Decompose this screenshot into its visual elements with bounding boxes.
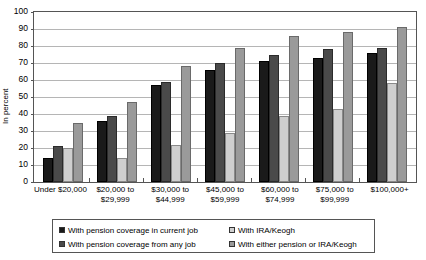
bar xyxy=(397,27,407,182)
legend-item: With IRA/Keogh xyxy=(229,226,368,235)
legend-item: With pension coverage from any job xyxy=(59,240,229,249)
y-tick-label: 100 xyxy=(4,7,28,15)
x-axis-tick-labels: Under $20,000$20,000 to $29,999$30,000 t… xyxy=(33,185,417,213)
plot-panel xyxy=(33,11,417,183)
y-tick-mark xyxy=(31,182,34,183)
bar xyxy=(107,116,117,182)
legend-swatch-icon xyxy=(59,227,65,233)
x-tick-label: $45,000 to $59,999 xyxy=(198,185,253,213)
legend-swatch-icon xyxy=(59,241,65,247)
y-tick-label: 0 xyxy=(4,177,28,185)
bar-groups xyxy=(34,12,416,182)
bar xyxy=(181,66,191,182)
bar xyxy=(367,53,377,182)
x-tick-label: Under $20,000 xyxy=(33,185,88,213)
plot-area: In percent 1009080706050403020100 Under … xyxy=(0,0,426,214)
bar xyxy=(205,70,215,182)
x-tick-label: $20,000 to $29,999 xyxy=(88,185,143,213)
legend-label: With pension coverage in current job xyxy=(68,226,198,235)
bar xyxy=(279,116,289,182)
y-tick-label: 90 xyxy=(4,24,28,32)
legend-label: With pension coverage from any job xyxy=(68,240,196,249)
bar xyxy=(377,48,387,182)
bar xyxy=(343,32,353,182)
bar xyxy=(289,36,299,182)
bar xyxy=(43,158,53,182)
bar xyxy=(323,49,333,182)
chart-legend: With pension coverage in current job Wit… xyxy=(52,219,375,253)
x-tick-label: $60,000 to $74,999 xyxy=(252,185,307,213)
y-tick-label: 10 xyxy=(4,160,28,168)
bar xyxy=(97,121,107,182)
bar xyxy=(387,83,397,182)
bar xyxy=(161,82,171,182)
bar xyxy=(151,85,161,182)
bar-group xyxy=(36,12,90,182)
bar xyxy=(313,58,323,182)
bar xyxy=(171,145,181,182)
bar xyxy=(53,146,63,182)
bar xyxy=(215,63,225,182)
bar-group xyxy=(360,12,414,182)
bar-group xyxy=(90,12,144,182)
bar xyxy=(259,61,269,182)
legend-item: With either pension or IRA/Keogh xyxy=(229,240,368,249)
bar xyxy=(63,148,73,182)
bar xyxy=(225,133,235,182)
y-tick-label: 30 xyxy=(4,126,28,134)
x-tick-label: $75,000 to $99,999 xyxy=(307,185,362,213)
bar-group xyxy=(306,12,360,182)
x-tick-label: $30,000 to $44,999 xyxy=(143,185,198,213)
legend-row: With pension coverage in current job Wit… xyxy=(59,223,368,237)
y-tick-label: 50 xyxy=(4,92,28,100)
y-tick-label: 20 xyxy=(4,143,28,151)
bar xyxy=(235,48,245,182)
y-tick-label: 60 xyxy=(4,75,28,83)
legend-label: With either pension or IRA/Keogh xyxy=(238,240,357,249)
y-tick-label: 80 xyxy=(4,41,28,49)
bar-group xyxy=(198,12,252,182)
chart-container: In percent 1009080706050403020100 Under … xyxy=(0,0,426,260)
legend-label: With IRA/Keogh xyxy=(238,226,295,235)
bar-group xyxy=(144,12,198,182)
bar xyxy=(127,102,137,182)
y-tick-label: 70 xyxy=(4,58,28,66)
legend-row: With pension coverage from any job With … xyxy=(59,237,368,251)
bar-group xyxy=(252,12,306,182)
bar xyxy=(73,123,83,183)
bar xyxy=(333,109,343,182)
bar xyxy=(269,55,279,183)
x-tick-label: $100,000+ xyxy=(362,185,417,213)
legend-item: With pension coverage in current job xyxy=(59,226,229,235)
legend-swatch-icon xyxy=(229,241,235,247)
y-axis-tick-labels: 1009080706050403020100 xyxy=(4,0,28,214)
bar xyxy=(117,158,127,182)
y-tick-label: 40 xyxy=(4,109,28,117)
legend-swatch-icon xyxy=(229,227,235,233)
